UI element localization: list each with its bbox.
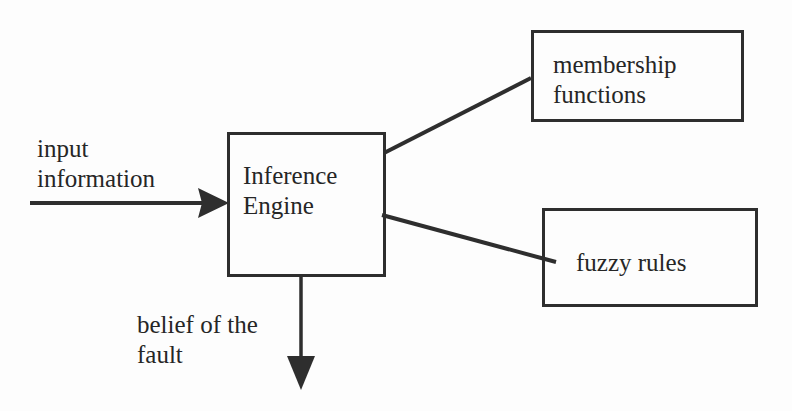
membership-functions-label-line1: membership [553, 50, 677, 79]
input-label-line1: input [37, 134, 88, 163]
output-label-line1: belief of the [137, 310, 258, 339]
arrowhead-down-icon [287, 356, 315, 390]
link-to-rules [382, 215, 556, 262]
inference-engine-label-line1: Inference [243, 161, 337, 190]
membership-functions-label-line2: functions [553, 80, 646, 109]
link-to-membership [384, 78, 531, 153]
input-label-line2: information [37, 164, 155, 193]
fuzzy-inference-diagram: Inference Engine membership functions fu… [0, 0, 792, 411]
fuzzy-rules-label: fuzzy rules [576, 248, 686, 277]
arrowhead-right-icon [198, 188, 229, 218]
output-arrow [287, 276, 315, 390]
output-label-line2: fault [137, 340, 183, 369]
inference-engine-label-line2: Engine [243, 191, 314, 220]
